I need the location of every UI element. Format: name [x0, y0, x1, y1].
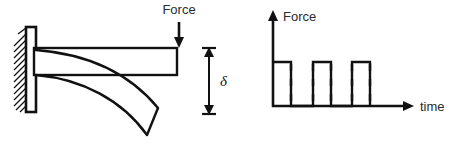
x-axis-label: time	[420, 99, 445, 114]
force-arrow-icon	[174, 22, 184, 48]
deflection-arrow-icon	[202, 47, 216, 115]
y-axis	[268, 10, 278, 107]
figure-svg: Force δ Force time	[0, 0, 452, 145]
figure-root: Force δ Force time	[0, 0, 452, 145]
force-label-beam: Force	[162, 2, 195, 17]
cantilever-beam-diagram: Force δ	[14, 2, 228, 135]
force-vs-time-chart: Force time	[268, 9, 445, 114]
y-axis-label: Force	[283, 9, 316, 24]
deflection-label: δ	[220, 73, 228, 89]
beam-deflected-bottom-edge	[36, 75, 147, 135]
force-pulse-train	[273, 62, 370, 106]
beam-deflected-tip	[147, 108, 158, 135]
dashed-guides	[291, 64, 370, 104]
wall-hatching-icon	[14, 28, 26, 112]
